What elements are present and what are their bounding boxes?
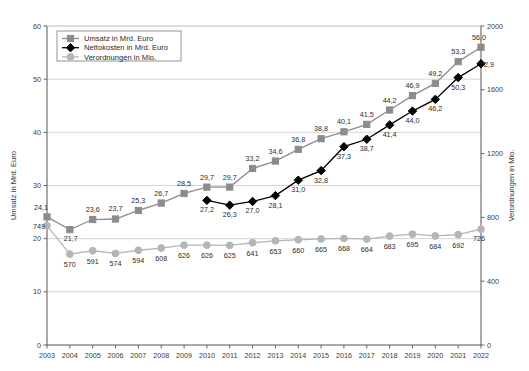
data-point-label: 570 [64, 260, 76, 269]
y-axis-tick-label: 0 [37, 341, 41, 350]
data-point-label: 27,0 [246, 206, 260, 215]
data-point-label: 692 [452, 241, 464, 250]
data-point-marker [67, 227, 73, 233]
data-point-marker [455, 59, 461, 65]
y-axis-title: Umsatz in Mrd. Euro [9, 151, 18, 220]
data-point-label: 34,6 [268, 147, 282, 156]
x-axis-tick-label: 2004 [62, 351, 78, 360]
x-axis-tick-label: 2015 [313, 351, 329, 360]
x-axis-tick-label: 2017 [359, 351, 375, 360]
legend-marker-3 [67, 54, 74, 61]
data-point-marker [248, 197, 256, 205]
x-axis-tick-label: 2014 [290, 351, 306, 360]
x-axis-tick-label: 2011 [222, 351, 237, 360]
data-point-label: 56,0 [472, 33, 486, 42]
legend-label-3: Verordnungen in Mio. [84, 53, 156, 62]
data-point-label: 594 [132, 256, 144, 265]
x-axis-tick-label: 2013 [267, 351, 283, 360]
data-point-marker [135, 247, 142, 254]
data-point-marker [432, 233, 439, 240]
y-axis-tick-label: 50 [33, 75, 41, 84]
data-point-label: 33,2 [246, 154, 260, 163]
y2-axis-tick-label: 800 [487, 213, 499, 222]
x-axis-tick-label: 2009 [176, 351, 192, 360]
data-point-marker [478, 226, 485, 233]
data-point-label: 574 [110, 259, 122, 268]
data-point-label: 36,8 [291, 135, 305, 144]
data-point-label: 44,2 [383, 96, 397, 105]
data-point-marker [385, 121, 393, 129]
data-point-label: 40,1 [337, 117, 351, 126]
data-point-marker [203, 242, 210, 249]
data-point-label: 23,6 [86, 205, 100, 214]
data-point-label: 695 [406, 240, 418, 249]
data-point-label: 626 [201, 251, 213, 260]
data-point-marker [249, 165, 255, 171]
data-point-label: 683 [384, 242, 396, 251]
data-point-label: 27,2 [200, 205, 214, 214]
data-point-label: 749 [33, 222, 45, 231]
data-point-label: 626 [178, 251, 190, 260]
data-point-label: 591 [87, 257, 99, 266]
y2-axis-title: Verordnungen in Mio. [507, 149, 516, 221]
data-point-label: 46,2 [428, 104, 442, 113]
data-point-label: 44,0 [405, 116, 419, 125]
data-point-label: 21,7 [64, 234, 78, 243]
data-point-marker [90, 216, 96, 222]
data-point-marker [432, 80, 438, 86]
data-point-marker [386, 233, 393, 240]
data-point-label: 28,5 [177, 179, 191, 188]
data-point-marker [66, 251, 73, 258]
data-point-marker [409, 93, 415, 99]
data-point-label: 37,3 [337, 152, 351, 161]
y-axis-tick-label: 20 [33, 234, 41, 243]
y2-axis-tick-label: 1200 [487, 149, 503, 158]
y-axis-tick-label: 30 [33, 181, 41, 190]
data-point-marker [363, 135, 371, 143]
data-point-marker [203, 196, 211, 204]
x-axis-tick-label: 2010 [199, 351, 215, 360]
data-point-label: 665 [315, 245, 327, 254]
data-point-label: 29,7 [200, 173, 214, 182]
data-point-marker [44, 214, 50, 220]
data-point-marker [181, 190, 187, 196]
data-point-label: 608 [155, 254, 167, 263]
data-point-marker [272, 237, 279, 244]
x-axis-tick-label: 2005 [85, 351, 101, 360]
y-axis-tick-label: 10 [33, 287, 41, 296]
data-point-marker [295, 236, 302, 243]
data-point-label: 24,1 [34, 203, 48, 212]
data-point-label: 49,2 [428, 69, 442, 78]
data-point-label: 684 [429, 242, 441, 251]
data-point-marker [181, 242, 188, 249]
data-point-label: 38,8 [314, 124, 328, 133]
legend-label-2: Nettokosten in Mrd. Euro [84, 43, 168, 52]
x-axis-tick-label: 2003 [39, 351, 55, 360]
data-point-marker [135, 207, 141, 213]
x-axis-tick-label: 2020 [427, 351, 443, 360]
data-point-marker [294, 176, 302, 184]
x-axis-tick-label: 2021 [450, 351, 466, 360]
x-axis-tick-label: 2008 [153, 351, 169, 360]
data-point-label: 625 [224, 251, 236, 260]
data-point-label: 50,3 [451, 83, 465, 92]
data-point-label: 31,0 [291, 185, 305, 194]
data-point-label: 32,8 [314, 176, 328, 185]
data-point-label: 41,5 [360, 110, 374, 119]
y-axis-tick-label: 40 [33, 128, 41, 137]
chart-container: 0102030405060040080012001600200020032004… [0, 0, 529, 371]
data-point-marker [295, 146, 301, 152]
data-point-marker [204, 184, 210, 190]
data-point-label: 53,3 [451, 47, 465, 56]
x-axis-tick-label: 2007 [130, 351, 146, 360]
data-point-marker [249, 239, 256, 246]
legend-label-1: Umsatz in Mrd. Euro [84, 34, 153, 43]
x-axis-tick-label: 2006 [108, 351, 124, 360]
data-point-marker [272, 158, 278, 164]
data-point-marker [271, 191, 279, 199]
data-point-marker [112, 216, 118, 222]
data-point-marker [364, 121, 370, 127]
legend-marker-1 [67, 35, 73, 41]
data-point-label: 26,3 [223, 210, 237, 219]
data-point-label: 26,7 [154, 189, 168, 198]
